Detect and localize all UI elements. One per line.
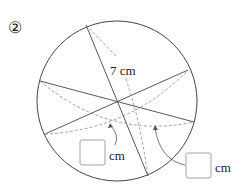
diameter-label: 7 cm (110, 63, 136, 78)
fold-arc-lower (40, 81, 194, 126)
fold-line-vertical (126, 79, 148, 176)
problem-number: ② (8, 19, 22, 36)
circle-folding-diagram: ② 7 cm cm cm (0, 0, 245, 192)
arrow-right-curve (155, 128, 185, 165)
arrow-right-head (153, 125, 158, 130)
answer-unit-2: cm (215, 160, 231, 175)
answer-unit-1: cm (109, 148, 125, 163)
arrow-left-curve (110, 125, 117, 145)
answer-box-1[interactable] (80, 140, 105, 165)
answer-box-2[interactable] (186, 153, 211, 178)
fold-line-top (86, 25, 117, 57)
diameter-line-rising (45, 70, 188, 134)
